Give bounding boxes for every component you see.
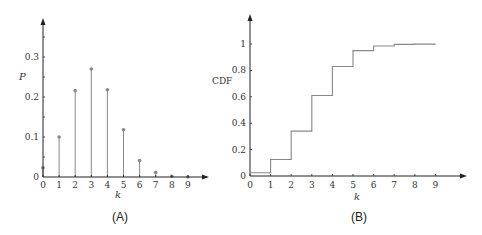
panel-label-b: (B) [351, 210, 367, 224]
y-tick-label: 0.2 [25, 92, 39, 102]
stem-marker [57, 135, 61, 139]
y-tick-label: 1 [240, 39, 246, 49]
x-tick-label: 1 [56, 180, 62, 190]
panel-label-a: (A) [112, 210, 128, 224]
x-tick-label: 3 [309, 180, 315, 190]
y-tick-label: 0.4 [232, 118, 247, 128]
y-tick-label: 0.6 [232, 92, 247, 102]
y-tick-label: 0.2 [232, 145, 246, 155]
x-tick-label: 0 [247, 180, 253, 190]
pmf-x-axis-label: k [115, 189, 121, 200]
x-tick-label: 4 [330, 180, 336, 190]
x-tick-label: 6 [137, 180, 143, 190]
cdf-y-axis-label: CDF [212, 76, 232, 86]
pmf-y-axis-label: P [18, 71, 26, 82]
figure: 012345678900.10.20.3 P k (A) 01234567890… [0, 0, 482, 235]
y-tick-label: 0 [33, 172, 39, 182]
cdf-step-line [250, 44, 435, 173]
pmf-chart: 012345678900.10.20.3 P k (A) [18, 18, 209, 224]
x-tick-label: 9 [185, 180, 191, 190]
x-tick-label: 6 [371, 180, 377, 190]
cdf-chart: 012345678900.20.40.60.81 CDF k (B) [212, 14, 467, 224]
x-tick-label: 8 [412, 180, 418, 190]
pmf-axes [41, 18, 210, 180]
stem-marker [90, 67, 94, 71]
stem-marker [154, 171, 158, 175]
x-tick-label: 3 [88, 180, 94, 190]
pmf-stems [41, 67, 190, 178]
x-axis-arrow-icon [202, 175, 209, 180]
x-tick-label: 5 [121, 180, 127, 190]
y-axis-arrow-icon [248, 14, 253, 21]
stem-marker [106, 88, 110, 92]
x-tick-label: 5 [350, 180, 356, 190]
y-tick-label: 0.1 [25, 132, 39, 142]
x-tick-label: 0 [40, 180, 46, 190]
cdf-x-axis-label: k [354, 191, 360, 202]
stem-marker [122, 128, 126, 132]
x-tick-label: 8 [169, 180, 175, 190]
x-tick-label: 2 [288, 180, 294, 190]
y-tick-label: 0.8 [232, 65, 247, 75]
y-axis-arrow-icon [41, 18, 46, 25]
x-tick-label: 2 [72, 180, 78, 190]
y-tick-label: 0 [240, 171, 246, 181]
x-tick-label: 4 [105, 180, 111, 190]
cdf-axes [248, 14, 468, 179]
y-tick-label: 0.3 [25, 52, 40, 62]
x-axis-arrow-icon [460, 174, 467, 179]
cdf-ticks: 012345678900.20.40.60.81 [232, 39, 439, 190]
stem-marker [73, 89, 77, 93]
x-tick-label: 7 [391, 180, 397, 190]
x-tick-label: 7 [153, 180, 159, 190]
stem-marker [138, 159, 142, 163]
x-tick-label: 9 [433, 180, 439, 190]
x-tick-label: 1 [268, 180, 274, 190]
